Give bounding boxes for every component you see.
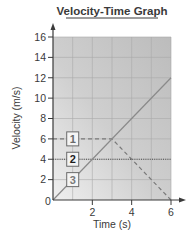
svg-text:3: 3: [70, 174, 76, 186]
y-tick-labels: 246810121416: [34, 31, 53, 186]
series-label-2: 2: [67, 152, 79, 166]
series-label-1: 1: [67, 132, 79, 146]
y-tick-label: 10: [34, 92, 46, 104]
x-axis-arrow-icon: [179, 198, 186, 203]
series-labels: 123: [67, 132, 79, 187]
x-tick-label: 2: [89, 206, 95, 218]
y-tick-label: 12: [34, 72, 46, 84]
x-tick-labels: 246: [89, 200, 174, 218]
x-axis-label: Time (s): [93, 218, 131, 230]
y-tick-label: 16: [34, 31, 46, 43]
svg-text:1: 1: [70, 133, 76, 145]
y-tick-label: 8: [40, 112, 46, 124]
y-axis-label: Velocity (m/s): [10, 86, 22, 149]
y-axis-arrow-icon: [51, 23, 56, 30]
origin-label: 0: [45, 195, 51, 207]
x-tick-label: 4: [129, 206, 135, 218]
velocity-time-chart: Velocity-Time Graph 246810121416 246 0 T…: [0, 0, 196, 250]
series-label-3: 3: [67, 173, 79, 187]
y-tick-label: 6: [40, 133, 46, 145]
x-tick-label: 6: [168, 206, 174, 218]
chart-title: Velocity-Time Graph: [57, 5, 168, 17]
y-tick-label: 14: [34, 51, 46, 63]
y-tick-label: 4: [40, 153, 46, 165]
y-tick-label: 2: [40, 173, 46, 185]
svg-text:2: 2: [70, 153, 76, 165]
